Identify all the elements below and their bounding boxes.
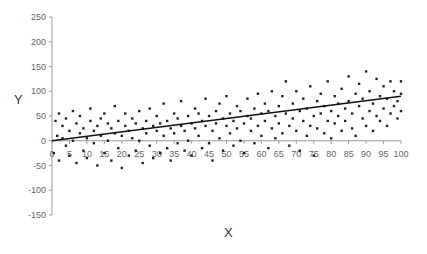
x-tick-label: 45 [204,149,214,159]
data-point [176,117,178,119]
data-point [281,132,283,134]
data-point [204,97,206,99]
data-point [292,117,294,119]
data-point [117,147,119,149]
x-axis-title: X [224,225,233,240]
data-point [400,93,402,95]
data-point [135,122,137,124]
data-point [173,112,175,114]
data-point [65,145,67,147]
data-point [274,115,276,117]
data-point [93,130,95,132]
data-point [114,105,116,107]
data-point [316,100,318,102]
data-point [138,110,140,112]
data-point [131,117,133,119]
data-point [236,105,238,107]
data-point [176,142,178,144]
y-tick-label: 250 [31,12,46,22]
data-point [253,107,255,109]
data-point [117,120,119,122]
data-point [107,122,109,124]
data-point [93,142,95,144]
data-point [393,105,395,107]
data-point [379,95,381,97]
data-point [340,88,342,90]
data-point [86,157,88,159]
data-point [372,102,374,104]
data-point [145,120,147,122]
y-tick-label: 50 [36,111,46,121]
data-point [396,100,398,102]
data-point [292,102,294,104]
data-point [82,149,84,151]
data-point [211,159,213,161]
data-point [232,145,234,147]
data-point [295,130,297,132]
data-point [204,125,206,127]
data-point [103,152,105,154]
data-point [124,125,126,127]
data-point [264,120,266,122]
data-point [75,162,77,164]
y-tick-label: -50 [33,161,46,171]
x-tick-label: 100 [393,149,408,159]
data-point [197,112,199,114]
data-point [110,127,112,129]
data-point [354,93,356,95]
data-point [149,145,151,147]
data-point [288,125,290,127]
x-tick-label: 40 [187,149,197,159]
data-point [166,120,168,122]
data-point [253,142,255,144]
data-point [243,122,245,124]
data-point [72,140,74,142]
data-point [354,135,356,137]
data-point [333,95,335,97]
x-tick-label: 5 [67,149,72,159]
data-point [208,115,210,117]
data-point [302,97,304,99]
data-point [316,127,318,129]
data-point [194,107,196,109]
data-point [285,80,287,82]
data-point [183,130,185,132]
data-point [218,137,220,139]
data-point [159,152,161,154]
data-point [96,164,98,166]
data-point [306,135,308,137]
data-point [201,147,203,149]
data-point [86,137,88,139]
data-point [211,130,213,132]
data-point [169,127,171,129]
data-point [299,149,301,151]
data-point [271,127,273,129]
y-tick-label: 100 [31,86,46,96]
data-point [320,112,322,114]
data-point [250,130,252,132]
data-point [72,110,74,112]
x-tick-label: 85 [344,149,354,159]
data-point [389,80,391,82]
data-point [267,147,269,149]
data-point [313,115,315,117]
data-point [375,78,377,80]
data-point [131,137,133,139]
data-point [138,140,140,142]
data-point [351,127,353,129]
data-point [58,112,60,114]
data-point [246,97,248,99]
data-point [393,90,395,92]
y-tick-label: -150 [28,210,46,220]
data-point [285,112,287,114]
data-point [344,107,346,109]
x-tick-label: 90 [361,149,371,159]
data-point [361,97,363,99]
data-point [229,112,231,114]
y-tick-label: 200 [31,37,46,47]
data-point [68,154,70,156]
data-point [333,122,335,124]
data-point [128,154,130,156]
data-point [295,90,297,92]
data-point [222,149,224,151]
